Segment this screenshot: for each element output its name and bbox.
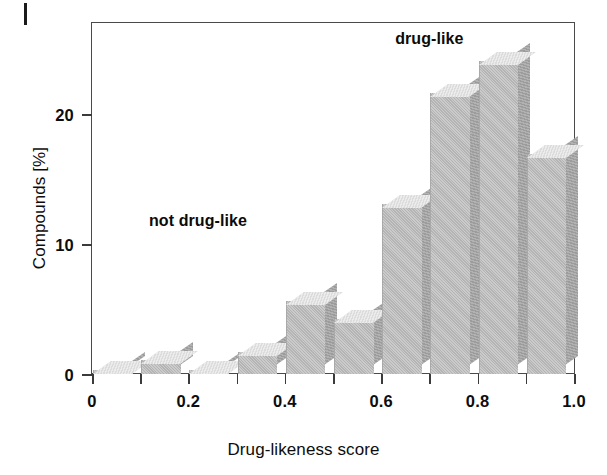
x-tick-major <box>285 374 287 384</box>
bar-0.1-0.2 <box>141 360 180 374</box>
y-tick-label: 0 <box>22 366 74 385</box>
page-edge-mark <box>24 3 27 25</box>
bar-front-face <box>527 154 567 374</box>
bar-0-0.1 <box>93 370 132 374</box>
annotation-drug-like: drug-like <box>395 30 463 48</box>
annotation-not-drug-like: not drug-like <box>149 212 247 230</box>
x-tick-major <box>478 374 480 384</box>
bar-0.7-0.8 <box>430 93 469 374</box>
x-tick-minor <box>237 374 239 384</box>
x-tick-minor <box>333 374 335 384</box>
bar-0.8-0.9 <box>479 61 518 374</box>
y-tick <box>82 244 92 246</box>
x-tick-label: 0 <box>87 392 96 411</box>
x-tick-label: 0.2 <box>177 392 201 411</box>
bar-front-face <box>286 301 326 374</box>
bar-0.6-0.7 <box>382 204 421 374</box>
bar-front-face <box>382 204 422 374</box>
plot-area <box>92 23 574 374</box>
bar-side-face <box>565 136 578 365</box>
x-tick-label: 1.0 <box>562 392 586 411</box>
x-tick-major <box>188 374 190 384</box>
x-tick-label: 0.4 <box>273 392 297 411</box>
bar-0.4-0.5 <box>286 301 325 374</box>
x-tick-minor <box>429 374 431 384</box>
bar-0.9-1.0 <box>527 154 566 374</box>
bar-front-face <box>430 93 470 374</box>
x-tick-major <box>574 374 576 384</box>
y-tick <box>82 114 92 116</box>
bar-front-face <box>334 319 374 374</box>
bar-0.2-0.3 <box>189 370 228 374</box>
y-tick <box>82 374 92 376</box>
x-tick-label: 0.8 <box>466 392 490 411</box>
x-tick-major <box>92 374 94 384</box>
x-axis-title: Drug-likeness score <box>0 440 607 460</box>
bar-0.3-0.4 <box>238 352 277 374</box>
chart-figure: 00.20.40.60.81.001020not drug-likedrug-l… <box>0 0 607 475</box>
y-axis-title: Compounds [%] <box>30 108 50 308</box>
bar-0.5-0.6 <box>334 319 373 374</box>
x-tick-minor <box>140 374 142 384</box>
bar-front-face <box>479 61 519 374</box>
x-tick-major <box>381 374 383 384</box>
x-tick-minor <box>526 374 528 384</box>
x-tick-label: 0.6 <box>369 392 393 411</box>
